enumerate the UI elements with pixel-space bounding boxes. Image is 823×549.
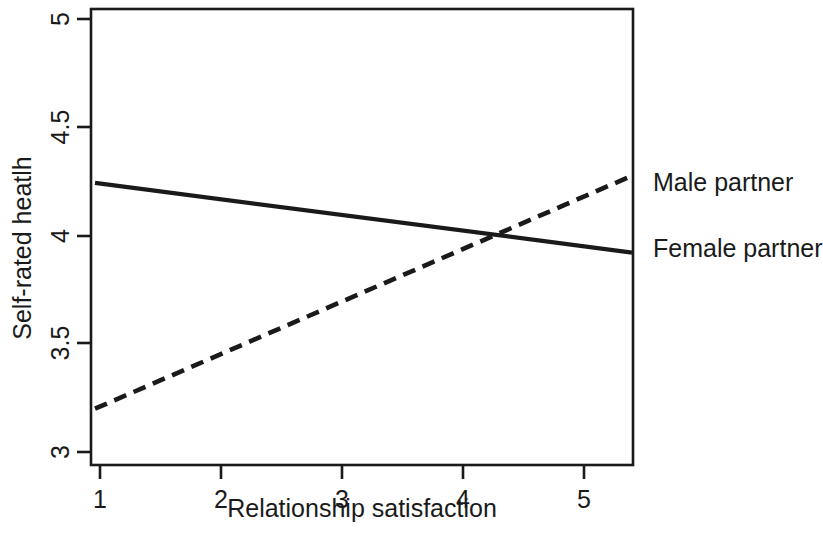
y-axis-ticks	[77, 19, 91, 452]
series-line-female-partner	[95, 176, 632, 409]
x-axis-ticks	[100, 465, 584, 479]
y-axis-title: Self-rated heatlh	[10, 156, 35, 339]
y-tick-label-5: 5	[48, 12, 73, 26]
x-tick-label-2: 2	[214, 487, 228, 512]
legend-label-male-partner: Male partner	[653, 170, 793, 195]
series-line-male-partner	[95, 183, 632, 253]
x-tick-label-5: 5	[577, 487, 591, 512]
y-tick-label-3-5: 3.5	[48, 326, 73, 361]
x-axis-title: Relationship satisfaction	[227, 496, 497, 521]
legend-label-female-partner: Female partner	[653, 236, 823, 261]
plot-frame-box	[91, 9, 633, 465]
y-tick-label-3: 3	[48, 445, 73, 459]
x-tick-label-1: 1	[93, 487, 107, 512]
y-tick-label-4-5: 4.5	[48, 110, 73, 145]
y-tick-label-4: 4	[48, 229, 73, 243]
